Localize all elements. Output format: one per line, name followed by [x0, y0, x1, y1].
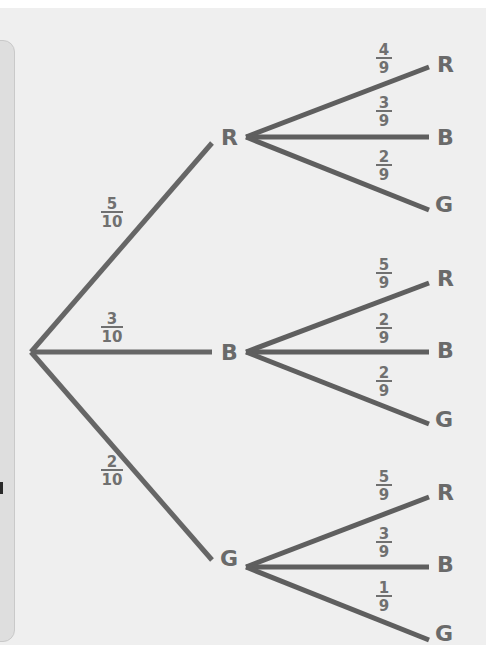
children-of-r: R 4 9 B 3 9 G 2 9 — [246, 41, 454, 217]
children-of-g: R 5 9 B 3 9 G 1 9 — [246, 468, 454, 645]
branch-r-to-b: B 3 9 — [246, 94, 454, 150]
fraction-numerator: 2 — [379, 364, 389, 382]
fraction-numerator: 2 — [107, 453, 117, 471]
tree-diagram-canvas: R 5 10 R 4 9 B 3 9 — [0, 0, 486, 645]
fraction-denominator: 9 — [379, 59, 389, 77]
fraction-numerator: 5 — [379, 468, 389, 486]
leaf-label-bb: B — [437, 338, 454, 363]
leaf-label-gg: G — [435, 621, 453, 645]
fraction-root-b: 3 10 — [101, 310, 123, 346]
branch-group-g: G 2 10 R 5 9 B 3 9 — [31, 352, 454, 645]
fraction-denominator: 10 — [102, 328, 123, 346]
branch-line — [246, 497, 429, 567]
branch-root-to-r — [31, 143, 212, 352]
leaf-label-br: R — [437, 266, 454, 291]
branch-line — [246, 567, 429, 640]
fraction-denominator: 10 — [102, 471, 123, 489]
fraction-denominator: 10 — [102, 213, 123, 231]
node-label-b: B — [221, 340, 238, 365]
fraction-numerator: 3 — [107, 310, 117, 328]
children-of-b: R 5 9 B 2 9 G 2 9 — [246, 256, 454, 432]
fraction-numerator: 1 — [379, 579, 389, 597]
fraction-denominator: 9 — [379, 597, 389, 615]
fraction-root-r: 5 10 — [101, 195, 123, 231]
branch-g-to-b: B 3 9 — [246, 525, 454, 577]
fraction-denominator: 9 — [379, 486, 389, 504]
branch-r-to-r: R 4 9 — [246, 41, 454, 137]
fraction-root-g: 2 10 — [101, 453, 123, 489]
fraction-numerator: 3 — [379, 94, 389, 112]
fraction-denominator: 9 — [379, 382, 389, 400]
fraction-numerator: 2 — [379, 311, 389, 329]
fraction-denominator: 9 — [379, 543, 389, 561]
branch-line — [246, 283, 429, 352]
fraction-numerator: 5 — [107, 195, 117, 213]
fraction-denominator: 9 — [379, 274, 389, 292]
fraction-numerator: 3 — [379, 525, 389, 543]
leaf-label-rg: G — [435, 192, 453, 217]
branch-g-to-r: R 5 9 — [246, 468, 454, 567]
branch-line — [246, 352, 429, 424]
node-label-g: G — [220, 546, 238, 571]
leaf-label-rb: B — [437, 125, 454, 150]
branch-line — [246, 137, 429, 210]
fraction-denominator: 9 — [379, 329, 389, 347]
fraction-denominator: 9 — [379, 166, 389, 184]
fraction-numerator: 5 — [379, 256, 389, 274]
branch-group-r: R 5 10 R 4 9 B 3 9 — [31, 41, 454, 352]
leaf-label-bg: G — [435, 407, 453, 432]
branch-root-to-g — [31, 352, 212, 560]
node-label-r: R — [221, 125, 238, 150]
branch-r-to-g: G 2 9 — [246, 137, 453, 217]
leaf-label-gr: R — [437, 480, 454, 505]
fraction-numerator: 4 — [379, 41, 389, 59]
leaf-label-gb: B — [437, 552, 454, 577]
fraction-denominator: 9 — [379, 112, 389, 130]
fraction-numerator: 2 — [379, 148, 389, 166]
branch-b-to-g: G 2 9 — [246, 352, 453, 432]
branch-b-to-r: R 5 9 — [246, 256, 454, 352]
branch-g-to-g: G 1 9 — [246, 567, 453, 645]
branch-b-to-b: B 2 9 — [246, 311, 454, 363]
branch-line — [246, 67, 429, 137]
leaf-label-rr: R — [437, 52, 454, 77]
probability-tree: R 5 10 R 4 9 B 3 9 — [0, 0, 486, 645]
